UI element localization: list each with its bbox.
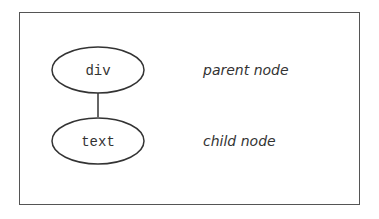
parent-node-caption: parent node (202, 62, 289, 78)
child-node-caption: child node (203, 133, 276, 149)
tree-diagram: div text parent node child node (0, 0, 379, 219)
node-parent-text: div (85, 63, 110, 79)
node-child-text: text (81, 134, 115, 150)
